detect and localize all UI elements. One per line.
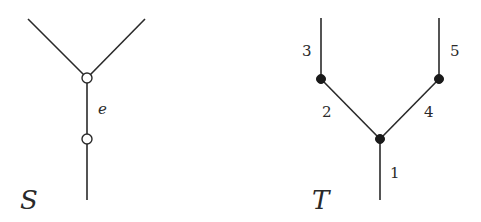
s-tree-name: S	[20, 185, 38, 215]
tree-s: e S	[20, 19, 145, 215]
s-edge-right-leaf	[90, 19, 145, 75]
t-edge-label-1: 1	[390, 164, 400, 182]
s-vertex-top	[82, 73, 92, 83]
t-vertex-root	[376, 135, 385, 144]
tree-diagram: e S 3 5 2 4 1 T	[0, 0, 481, 222]
t-tree-name: T	[312, 185, 331, 215]
t-edge-label-2: 2	[322, 103, 332, 121]
t-edge-label-3: 3	[302, 42, 312, 60]
s-edge-label-e: e	[98, 100, 107, 118]
t-vertex-left	[317, 75, 326, 84]
s-edge-left-leaf	[28, 19, 84, 75]
t-vertex-right	[435, 75, 444, 84]
tree-t: 3 5 2 4 1 T	[302, 18, 460, 215]
t-edge-label-4: 4	[424, 103, 434, 121]
s-vertex-mid	[82, 134, 92, 144]
t-edge-label-5: 5	[450, 42, 460, 60]
